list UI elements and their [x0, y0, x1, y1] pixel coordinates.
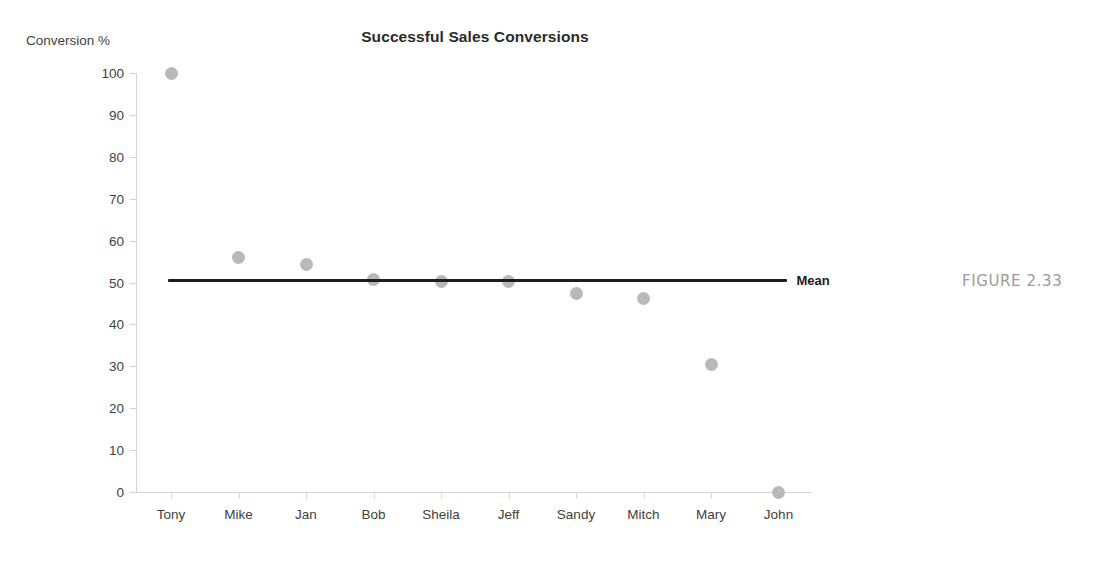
data-point [165, 67, 178, 80]
mean-line [168, 279, 787, 282]
data-point [232, 251, 245, 264]
y-axis-tick [130, 115, 136, 116]
y-axis-tick [130, 492, 136, 493]
y-axis-line [136, 73, 137, 493]
data-point [705, 358, 718, 371]
x-axis-tick [644, 493, 645, 499]
y-axis-tick [130, 324, 136, 325]
y-axis-tick [130, 450, 136, 451]
y-axis-tick-label: 10 [28, 443, 124, 458]
data-point [637, 292, 650, 305]
y-axis-tick-label: 70 [28, 191, 124, 206]
figure-container: Successful Sales Conversions Conversion … [0, 0, 1120, 562]
y-axis-tick-label: 30 [28, 359, 124, 374]
x-axis-line [136, 492, 811, 493]
x-axis-tick [711, 493, 712, 499]
y-axis-tick-label: 100 [28, 66, 124, 81]
y-axis-title: Conversion % [26, 33, 110, 48]
x-axis-tick [239, 493, 240, 499]
y-axis-tick [130, 157, 136, 158]
y-axis-tick-label: 0 [28, 485, 124, 500]
y-axis-tick [130, 199, 136, 200]
y-axis-tick-label: 90 [28, 107, 124, 122]
x-axis-tick [441, 493, 442, 499]
x-axis-tick [374, 493, 375, 499]
x-axis-tick [509, 493, 510, 499]
y-axis-tick [130, 241, 136, 242]
y-axis-tick-label: 80 [28, 149, 124, 164]
y-axis-tick-label: 50 [28, 275, 124, 290]
y-axis-tick [130, 366, 136, 367]
chart-title: Successful Sales Conversions [240, 28, 710, 46]
y-axis-tick [130, 408, 136, 409]
y-axis-tick-label: 60 [28, 233, 124, 248]
y-axis-tick [130, 283, 136, 284]
x-axis-tick [171, 493, 172, 499]
y-axis-tick-label: 20 [28, 401, 124, 416]
data-point [772, 486, 785, 499]
data-point [570, 287, 583, 300]
mean-line-label: Mean [797, 273, 830, 288]
y-axis-tick [130, 73, 136, 74]
x-axis-tick-label: John [734, 507, 824, 522]
y-axis-tick-label: 40 [28, 317, 124, 332]
data-point [300, 258, 313, 271]
figure-caption: FIGURE 2.33 [962, 272, 1062, 290]
x-axis-tick [306, 493, 307, 499]
x-axis-tick [576, 493, 577, 499]
